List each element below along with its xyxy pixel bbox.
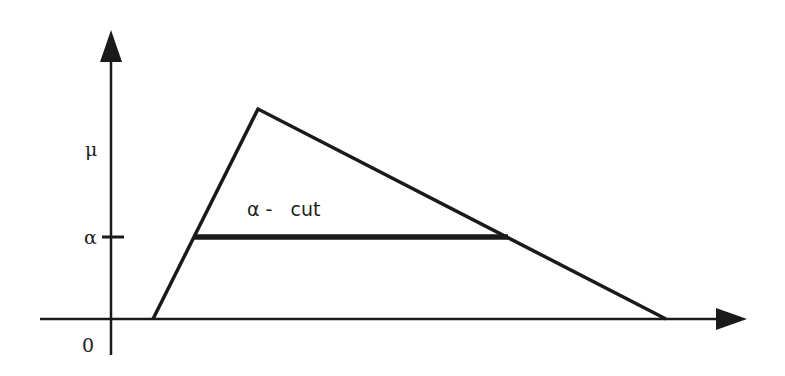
x-axis-arrowhead-icon	[716, 308, 747, 330]
alpha-cut-label: α - cut	[247, 198, 320, 220]
mu-label: μ	[85, 138, 97, 160]
diagram-svg	[0, 0, 785, 376]
triangular-membership-function	[153, 109, 666, 319]
origin-label: 0	[82, 334, 94, 356]
y-axis-arrowhead-icon	[100, 30, 122, 62]
alpha-label: α	[84, 226, 97, 248]
fuzzy-alpha-cut-diagram: μ α 0 α - cut	[0, 0, 785, 376]
